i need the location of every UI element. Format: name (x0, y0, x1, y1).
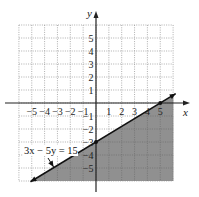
marked-point (158, 101, 162, 105)
x-tick-label: −2 (65, 106, 76, 117)
y-tick-label: 4 (89, 46, 94, 57)
y-axis-label: y (86, 7, 92, 19)
x-tick-label: 4 (145, 106, 150, 117)
x-tick-label: 2 (119, 106, 124, 117)
x-tick-label: −4 (39, 106, 50, 117)
x-tick-label: 1 (106, 106, 111, 117)
y-tick-label: −3 (83, 137, 94, 148)
y-tick-label: −1 (83, 111, 94, 122)
pointer-arrow-icon (48, 161, 53, 167)
equation-label: 3x − 5y = 15 (24, 145, 78, 156)
y-tick-label: 5 (89, 33, 94, 44)
y-tick-label: 2 (89, 72, 94, 83)
x-tick-label: −3 (52, 106, 63, 117)
x-axis-label: x (182, 106, 188, 118)
y-tick-label: 3 (89, 59, 94, 70)
y-axis-arrow-icon (94, 11, 99, 18)
x-tick-label: −5 (26, 106, 37, 117)
marked-point (94, 140, 98, 144)
y-tick-label: 1 (89, 85, 94, 96)
x-axis-arrow-icon (183, 101, 190, 106)
y-tick-label: −5 (83, 163, 94, 174)
inequality-graph: −5−4−3−2−11234554321−1−2−3−4−5 x y 3x − … (0, 0, 199, 197)
y-tick-label: −2 (83, 124, 94, 135)
y-tick-label: −4 (83, 150, 94, 161)
x-tick-label: 5 (158, 106, 163, 117)
x-tick-label: 3 (132, 106, 137, 117)
